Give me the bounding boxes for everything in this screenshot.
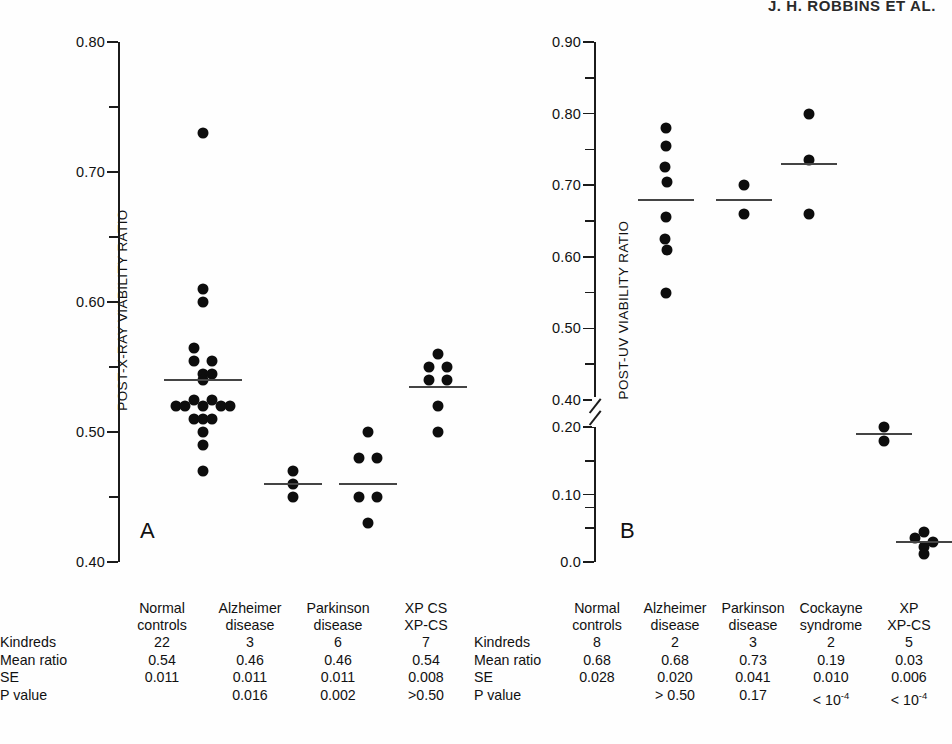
panel-a-point-3-1 — [424, 362, 435, 373]
panel-b-ytick-0.80-label: 0.80 — [552, 106, 581, 122]
panel-b-mean-bar-0 — [638, 199, 694, 201]
panel-a-table: NormalAlzheimerParkinsonXP CScontrolsdis… — [0, 600, 470, 704]
table-header-row: controlsdiseasediseasesyndromeXP-CS — [474, 617, 948, 634]
table-row: P value> 0.500.17< 10-4< 10-4 — [474, 687, 948, 709]
panel-b-ytick-0.20-label: 0.20 — [552, 419, 581, 435]
panel-a-point-0-18 — [207, 414, 218, 425]
panel-b-point-2-0 — [804, 108, 815, 119]
panel-a-point-3-3 — [424, 375, 435, 386]
table-cell-3-0 — [118, 687, 206, 705]
table-row: P value0.0160.002>0.50 — [0, 687, 470, 705]
panel-a-point-1-2 — [288, 492, 299, 503]
table-cell-2-1: 0.020 — [636, 669, 714, 687]
panel-a-point-0-0 — [198, 128, 209, 139]
panel-a-point-3-4 — [442, 375, 453, 386]
panel-a-point-2-4 — [372, 492, 383, 503]
table-cell-3-2: 0.002 — [294, 687, 382, 705]
table-column-header-1: Alzheimer — [636, 600, 714, 617]
panel-a-summary-table: NormalAlzheimerParkinsonXP CScontrolsdis… — [0, 600, 474, 704]
panel-a-ytick-0.80 — [107, 41, 118, 43]
panel-b-point-0-3 — [662, 176, 673, 187]
table-column-header-0: controls — [118, 617, 206, 634]
panel-b-point-1-1 — [739, 208, 750, 219]
table-column-header-4: XP — [870, 600, 948, 617]
panel-b-letter: B — [620, 518, 635, 544]
table-row-label-1: Mean ratio — [474, 652, 558, 670]
table-cell-0-2: 3 — [714, 634, 792, 652]
table-cell-1-1: 0.46 — [206, 652, 294, 670]
table-row-label-3: P value — [0, 687, 118, 705]
panel-a-ytick-0.80-label: 0.80 — [76, 34, 105, 50]
table-header-row: NormalAlzheimerParkinsonXP CS — [0, 600, 470, 617]
table-cell-2-3: 0.010 — [792, 669, 870, 687]
panel-a-mean-bar-0 — [164, 379, 242, 381]
table-cell-3-3: >0.50 — [382, 687, 470, 705]
table-cell-3-2: 0.17 — [714, 687, 792, 709]
table-cell-0-3: 2 — [792, 634, 870, 652]
panel-a-point-2-5 — [363, 518, 374, 529]
table-cell-1-3: 0.54 — [382, 652, 470, 670]
panel-a-ytick-0.70 — [107, 171, 118, 173]
panel-b-point-0-0 — [661, 122, 672, 133]
table-header-row: controlsdiseasediseaseXP-CS — [0, 617, 470, 634]
table-corner-cell — [0, 617, 118, 634]
panel-a-plot-area: 0.400.500.600.700.80 — [118, 42, 458, 562]
panel-a-ytick-0.70-label: 0.70 — [76, 164, 105, 180]
panel-b-point-0-1 — [661, 140, 672, 151]
panel-b-ytick-minor-0.45 — [585, 363, 594, 365]
table-column-header-3: XP CS — [382, 600, 470, 617]
panel-a-ytick-0.50-label: 0.50 — [76, 424, 105, 440]
table-row-label-0: Kindreds — [0, 634, 118, 652]
panel-b-ytick-minor-0.85 — [585, 77, 594, 79]
panel-a-ytick-minor-0.55 — [109, 366, 118, 368]
panel-a-point-0-1 — [198, 284, 209, 295]
table-column-header-3: syndrome — [792, 617, 870, 634]
table-row-label-3: P value — [474, 687, 558, 709]
table-cell-1-3: 0.19 — [792, 652, 870, 670]
table-cell-3-3: < 10-4 — [792, 687, 870, 709]
table-row-label-2: SE — [0, 669, 118, 687]
panel-b-mean-bar-3 — [856, 433, 912, 435]
table-cell-0-4: 5 — [870, 634, 948, 652]
panel-a-ytick-minor-0.45 — [109, 496, 118, 498]
panel-a-point-0-20 — [198, 440, 209, 451]
panel-a-ytick-minor-0.75 — [109, 106, 118, 108]
panel-b-point-0-2 — [660, 162, 671, 173]
table-cell-0-1: 2 — [636, 634, 714, 652]
panel-b-ytick-0.60 — [583, 256, 594, 258]
panel-b-ytick-minor-0.65 — [585, 220, 594, 222]
panel-b-mean-bar-1 — [716, 199, 772, 201]
panel-a-point-0-21 — [198, 466, 209, 477]
panel-a: POST-X-RAY VIABILITY RATIO 0.400.500.600… — [0, 30, 474, 590]
panel-a-point-0-15 — [225, 401, 236, 412]
panel-a-point-0-12 — [180, 401, 191, 412]
panel-a-point-3-0 — [433, 349, 444, 360]
panel-a-point-0-13 — [198, 401, 209, 412]
table-column-header-1: Alzheimer — [206, 600, 294, 617]
panel-a-ytick-0.60-label: 0.60 — [76, 294, 105, 310]
panel-b-point-0-7 — [661, 287, 672, 298]
table-column-header-2: disease — [294, 617, 382, 634]
panel-a-mean-bar-2 — [339, 483, 397, 485]
table-row: SE0.0280.0200.0410.0100.006 — [474, 669, 948, 687]
panel-b-summary-table: NormalAlzheimerParkinsonCockayneXPcontro… — [474, 600, 948, 709]
table-column-header-3: XP-CS — [382, 617, 470, 634]
panel-b-ytick-0.00-label: 0.0 — [560, 554, 581, 570]
panel-a-point-3-6 — [433, 427, 444, 438]
panel-b-ytick-0.40-label: 0.40 — [552, 392, 581, 408]
panel-a-ytick-0.40 — [107, 561, 118, 563]
table-cell-0-0: 22 — [118, 634, 206, 652]
panel-a-point-2-0 — [363, 427, 374, 438]
panel-b-ytick-0.00 — [583, 561, 594, 563]
table-column-header-3: Cockayne — [792, 600, 870, 617]
panel-b-point-4-4 — [919, 548, 930, 559]
panel-a-point-3-2 — [442, 362, 453, 373]
table-cell-0-2: 6 — [294, 634, 382, 652]
table-cell-2-4: 0.006 — [870, 669, 948, 687]
panel-b-ytick-0.50-label: 0.50 — [552, 320, 581, 336]
table-column-header-4: XP-CS — [870, 617, 948, 634]
table-cell-0-0: 8 — [558, 634, 636, 652]
panel-b-ytick-0.70-label: 0.70 — [552, 177, 581, 193]
table-cell-0-3: 7 — [382, 634, 470, 652]
